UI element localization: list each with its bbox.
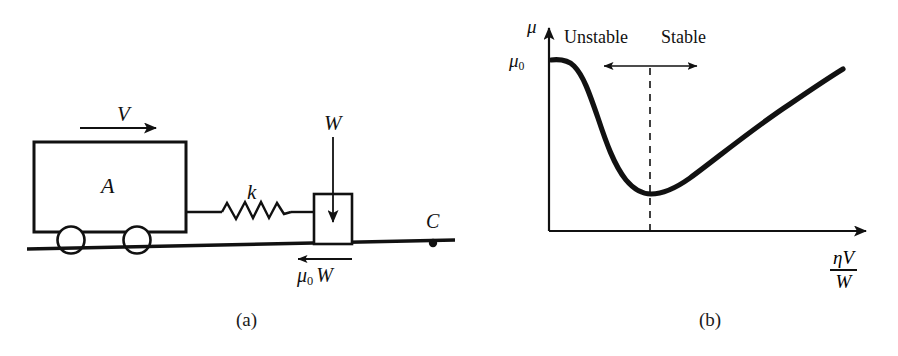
- y-axis-label: μ: [527, 17, 537, 36]
- panel-b-caption: (b): [699, 310, 721, 329]
- x-axis-label: ηV W: [830, 248, 857, 291]
- mu-zero-symbol: μ: [509, 50, 519, 71]
- panel-a-linework: [27, 128, 455, 259]
- velocity-label: V: [117, 104, 130, 125]
- spring-constant-label: k: [247, 182, 256, 203]
- stribeck-curve: [551, 60, 843, 194]
- ground-line: [27, 240, 455, 249]
- point-c-label: C: [426, 211, 439, 231]
- friction-weight-symbol: W: [316, 264, 333, 286]
- point-c-marker: [429, 239, 437, 247]
- cart-label: A: [101, 175, 114, 197]
- friction-force-label: μ0W: [297, 265, 333, 288]
- stable-region-label: Stable: [661, 28, 706, 46]
- cart-wheel-front: [124, 227, 151, 254]
- y-axis-tick-label: μ0: [509, 51, 524, 73]
- velocity-symbol: V: [842, 247, 854, 268]
- panel-b-linework: [549, 28, 866, 231]
- panel-a-caption: (a): [236, 310, 257, 329]
- figure-container: V A k W μ0W C (a) μ μ0 Unstable Stable η…: [0, 0, 898, 356]
- friction-mu-subscript: 0: [307, 274, 313, 288]
- mu-zero-subscript: 0: [519, 60, 525, 73]
- friction-mu-symbol: μ: [297, 264, 307, 286]
- figure-linework: [0, 0, 898, 356]
- spring-coil: [222, 202, 291, 219]
- x-axis-denominator: W: [830, 271, 857, 292]
- x-axis-numerator: ηV: [830, 248, 857, 269]
- unstable-region-label: Unstable: [564, 28, 628, 46]
- weight-label: W: [324, 113, 342, 134]
